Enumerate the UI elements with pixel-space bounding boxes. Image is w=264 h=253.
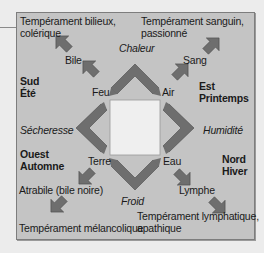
temperament-sanguin-line2: passionné: [141, 27, 244, 39]
temperament-melancolique-line1: Tempérament mélancolique: [19, 222, 143, 234]
chevron-arrow-icon-top: [109, 64, 161, 96]
diagonal-arrow-icon-atrabile-temperament: [45, 192, 71, 218]
quality-froid: Froid: [121, 195, 144, 207]
temperament-lymphatique-line2: apathique: [137, 222, 259, 234]
temperament-melancolique: Tempérament mélancolique: [19, 222, 143, 234]
season-automne: Automne: [20, 160, 64, 172]
temperament-bilieux-line1: Tempérament bilieux,: [20, 15, 116, 27]
quality-humidite: Humidité: [203, 124, 243, 136]
temperament-bilieux-line2: colérique: [20, 27, 116, 39]
direction-est: Est: [199, 80, 249, 92]
temperament-sanguin-line1: Tempérament sanguin,: [141, 15, 244, 27]
humor-bile: Bile: [65, 54, 82, 66]
element-terre: Terre: [88, 155, 111, 167]
direction-est-printemps: Est Printemps: [199, 80, 249, 104]
direction-sud-ete: Sud Été: [20, 75, 39, 99]
humor-sang: Sang: [183, 54, 207, 66]
chevron-arrow-icon-bottom: [109, 158, 161, 190]
humor-lymphe: Lymphe: [179, 184, 215, 196]
direction-nord: Nord: [222, 153, 247, 165]
temperament-lymphatique-line1: Tempérament lymphatique,: [137, 210, 259, 222]
temperament-bilieux: Tempérament bilieux, colérique: [20, 15, 116, 39]
season-printemps: Printemps: [199, 92, 249, 104]
humor-atrabile: Atrabile (bile noire): [19, 184, 103, 196]
temperament-sanguin: Tempérament sanguin, passionné: [141, 15, 244, 39]
direction-ouest-automne: Ouest Automne: [20, 148, 64, 172]
element-air: Air: [162, 86, 174, 98]
direction-nord-hiver: Nord Hiver: [222, 153, 247, 177]
quality-chaleur: Chaleur: [119, 42, 154, 54]
temperament-lymphatique: Tempérament lymphatique, apathique: [137, 210, 259, 234]
season-ete: Été: [20, 87, 39, 99]
element-feu: Feu: [92, 86, 110, 98]
center-square: [110, 100, 160, 155]
quality-secheresse: Sécheresse: [20, 124, 73, 136]
direction-ouest: Ouest: [20, 148, 64, 160]
direction-sud: Sud: [20, 75, 39, 87]
element-eau: Eau: [163, 155, 181, 167]
chevron-arrow-icon-right: [163, 102, 194, 154]
chevron-arrow-icon-left: [76, 102, 107, 154]
season-hiver: Hiver: [222, 165, 247, 177]
